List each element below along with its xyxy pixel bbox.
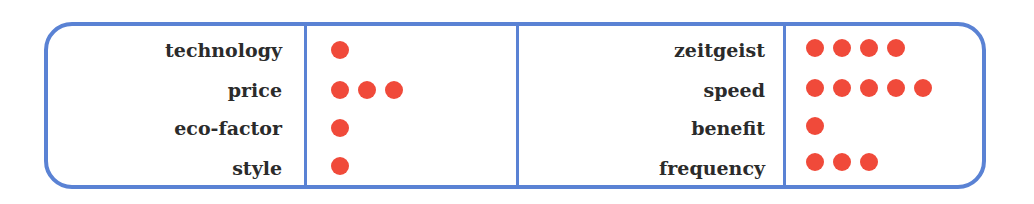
rating-dots-technology [331,41,349,59]
rating-dot-icon [887,79,905,97]
label-technology: technology [62,38,282,62]
rating-dots-style [331,157,349,175]
rating-dot-icon [331,119,349,137]
divider-right [783,22,786,189]
rating-dots-price [331,81,403,99]
rating-dot-icon [806,39,824,57]
rating-dot-icon [860,153,878,171]
divider-middle [516,22,519,189]
rating-dot-icon [806,79,824,97]
rating-dot-icon [914,79,932,97]
rating-dot-icon [331,157,349,175]
rating-dot-icon [385,81,403,99]
rating-dot-icon [833,39,851,57]
rating-dot-icon [331,81,349,99]
rating-dots-eco-factor [331,119,349,137]
rating-dot-icon [358,81,376,99]
rating-dot-icon [331,41,349,59]
label-eco-factor: eco-factor [62,116,282,140]
label-speed: speed [545,78,765,102]
label-zeitgeist: zeitgeist [545,38,765,62]
rating-dot-icon [887,39,905,57]
rating-dot-icon [860,79,878,97]
rating-dot-icon [860,39,878,57]
rating-dot-icon [806,117,824,135]
rating-dots-frequency [806,153,878,171]
label-benefit: benefit [545,116,765,140]
rating-dots-zeitgeist [806,39,905,57]
label-price: price [62,78,282,102]
rating-dot-icon [833,79,851,97]
rating-dots-speed [806,79,932,97]
label-style: style [62,156,282,180]
divider-left [304,22,307,189]
label-frequency: frequency [545,156,765,180]
rating-dots-benefit [806,117,824,135]
rating-dot-icon [833,153,851,171]
rating-dot-icon [806,153,824,171]
